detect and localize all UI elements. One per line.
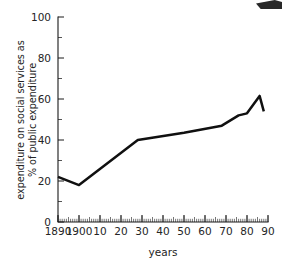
x-tick-label: 10 bbox=[93, 225, 106, 237]
y-axis-title-line1: expenditure on social services as bbox=[15, 40, 26, 199]
x-tick-label: 1900 bbox=[66, 225, 93, 237]
y-tick-label: 40 bbox=[38, 134, 51, 146]
x-tick-label: 60 bbox=[198, 225, 211, 237]
x-tick-label: 40 bbox=[156, 225, 169, 237]
data-series-line bbox=[58, 96, 264, 185]
line-chart: 020406080100 18901900102030405060708090 … bbox=[0, 0, 284, 268]
x-tick-label: 90 bbox=[261, 225, 274, 237]
x-axis-tick-labels: 18901900102030405060708090 bbox=[45, 225, 275, 237]
figure-container: 020406080100 18901900102030405060708090 … bbox=[0, 0, 284, 268]
y-axis-title-line2: % of public expenditure bbox=[27, 63, 38, 177]
axis-frame bbox=[58, 17, 268, 222]
x-tick-label: 50 bbox=[177, 225, 190, 237]
y-axis-title: expenditure on social services as % of p… bbox=[15, 40, 38, 199]
y-tick-label: 20 bbox=[38, 175, 51, 187]
x-tick-label: 30 bbox=[135, 225, 148, 237]
y-axis-ticks bbox=[58, 17, 64, 222]
y-tick-label: 60 bbox=[38, 93, 51, 105]
x-axis-title: years bbox=[149, 246, 178, 258]
x-tick-label: 20 bbox=[114, 225, 127, 237]
x-tick-label: 80 bbox=[240, 225, 253, 237]
y-tick-label: 80 bbox=[38, 52, 51, 64]
x-tick-label: 70 bbox=[219, 225, 232, 237]
y-tick-label: 100 bbox=[31, 11, 51, 23]
